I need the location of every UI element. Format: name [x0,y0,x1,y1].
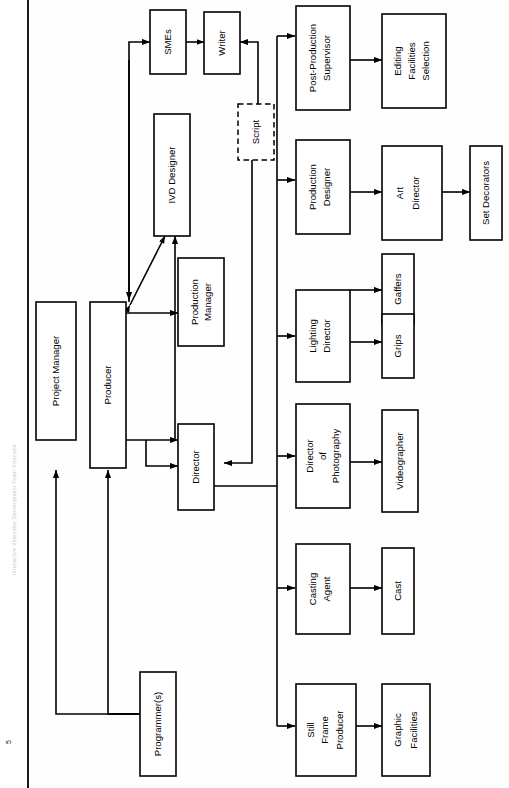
node-label: Script [250,119,261,144]
node-label: Producer [334,710,345,750]
node-videographer[interactable]: Videographer [382,410,418,512]
node-label: Lighting [307,319,318,353]
node-label: SMEs [162,29,173,55]
node-label: Post-Production [307,24,318,92]
node-project-manager[interactable]: Project Manager [36,302,76,440]
node-label: Project Manager [50,335,61,406]
node-label: Supervisor [321,34,332,81]
edge-script-to-director [224,160,252,463]
node-label: Grips [392,334,403,357]
node-graphic-facilities[interactable]: Graphic Facilities [382,684,430,776]
node-label: Director [321,318,332,352]
node-label: Graphic [392,713,403,747]
node-ivd-designer[interactable]: IVD Designer [154,114,190,236]
edge-programmers-to-project-manager [56,470,142,714]
node-label: of [317,452,328,460]
node-art-director[interactable]: Art Director [382,146,442,240]
node-editing-facilities-selection[interactable]: Editing Facilities Selection [382,14,446,108]
node-still-frame-producer[interactable]: Still Frame Producer [296,684,356,776]
node-script[interactable]: Script [238,104,274,160]
node-label: Cast [392,581,403,601]
node-label: Art [394,187,405,200]
node-cast[interactable]: Cast [382,548,414,634]
node-producer[interactable]: Producer [90,302,126,468]
node-production-manager[interactable]: Production Manager [178,258,224,346]
node-label: Still [305,722,316,737]
node-label: Photography [330,429,341,484]
node-label: Videographer [394,431,405,489]
node-label: IVD Designer [166,146,177,204]
node-label: Manager [202,282,213,321]
edge-script-to-writer [240,42,258,104]
node-label: Writer [216,29,227,55]
node-programmers[interactable]: Programmer(s) [140,672,176,776]
node-label: Frame [319,716,330,744]
node-label: Facilities [408,711,419,749]
node-label: Designer [321,167,332,206]
edge-producer-to-director-b [146,440,178,466]
node-director-of-photography[interactable]: Director of Photography [296,404,350,508]
node-label: Selection [420,41,431,80]
node-director[interactable]: Director [178,424,214,510]
node-label: Director [304,438,315,472]
edge-programmers-to-producer [108,470,142,714]
node-lighting-director[interactable]: Lighting Director [296,290,350,382]
node-label: Casting [307,573,318,606]
node-label: Producer [102,365,113,405]
node-label: Agent [321,576,332,601]
node-label: Production [189,279,200,325]
node-label: Director [190,449,201,483]
node-label: Production [307,164,318,210]
node-label: Set Decorators [480,161,491,225]
edge-producer-to-smes [129,42,150,302]
node-writer[interactable]: Writer [204,12,240,74]
node-label: Programmer(s) [152,692,163,757]
node-label: Editing [392,46,403,75]
node-set-decorators[interactable]: Set Decorators [470,146,502,240]
node-post-production-supervisor[interactable]: Post-Production Supervisor [296,6,350,110]
node-label: Gaffers [392,273,403,304]
scanned-page: Interactive Videodisc Development Team S… [0,0,509,788]
node-production-designer[interactable]: Production Designer [296,140,350,234]
node-label: Facilities [406,42,417,80]
edge-producer-ivd-designer [130,236,165,305]
org-chart-diagram: Project Manager Producer Programmer(s) S… [0,0,509,788]
node-casting-agent[interactable]: Casting Agent [296,544,350,634]
node-label: Director [410,175,421,209]
node-grips[interactable]: Grips [382,314,414,378]
node-smes[interactable]: SMEs [150,10,186,74]
